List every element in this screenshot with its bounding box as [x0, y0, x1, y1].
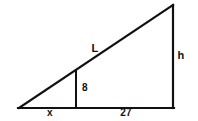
far-height-label: h: [178, 50, 185, 61]
hypotenuse-line: [19, 5, 173, 108]
hypotenuse-label: L: [92, 43, 99, 54]
triangle-drawing: [0, 0, 198, 121]
inner-height-label: 8: [82, 83, 88, 93]
geometry-figure: L h 8 x 27: [0, 0, 198, 121]
far-base-label: 27: [120, 108, 132, 118]
near-base-label: x: [47, 108, 53, 118]
